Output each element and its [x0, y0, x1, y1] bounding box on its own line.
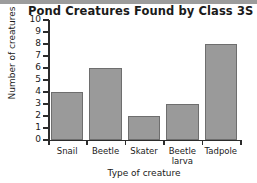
y-axis-tick-label: 10 — [27, 15, 41, 24]
bar — [166, 104, 198, 140]
y-axis-tick-label: 0 — [27, 135, 41, 144]
x-axis-tick — [240, 140, 242, 145]
x-axis-tick-label: Tadpole — [198, 147, 244, 157]
x-axis-tick — [86, 140, 88, 145]
bar-series — [48, 20, 240, 140]
bar — [51, 92, 83, 140]
y-axis-tick-label: 5 — [27, 75, 41, 84]
x-axis-tick — [125, 140, 127, 145]
x-axis-tick — [48, 140, 50, 145]
y-axis-tick-label: 2 — [27, 111, 41, 120]
bar-chart: Pond Creatures Found by Class 3S Number … — [0, 0, 257, 183]
y-axis-tick-label: 7 — [27, 51, 41, 60]
bar — [128, 116, 160, 140]
chart-title: Pond Creatures Found by Class 3S — [28, 5, 253, 18]
y-axis-tick-label: 4 — [27, 87, 41, 96]
y-axis-tick-label: 6 — [27, 63, 41, 72]
y-axis-tick-label: 9 — [27, 27, 41, 36]
x-axis-tick — [202, 140, 204, 145]
x-axis-tick — [163, 140, 165, 145]
bar — [89, 68, 121, 140]
y-axis-title: Number of creatures — [7, 0, 17, 113]
y-axis-tick-label: 3 — [27, 99, 41, 108]
x-axis-title: Type of creature — [48, 168, 240, 178]
bar — [205, 44, 237, 140]
y-axis-tick-label: 8 — [27, 39, 41, 48]
y-axis-tick-label: 1 — [27, 123, 41, 132]
